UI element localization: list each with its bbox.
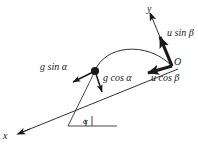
vector-label-u-cos-beta: u cos β (151, 73, 179, 83)
x-axis-label: x (3, 131, 7, 141)
vector-label-g-cos-alpha: g cos α (103, 73, 132, 83)
physics-diagram: y x O α u sin β u cos β g sin α g cos α (0, 0, 198, 151)
particle-connector-line (68, 71, 95, 126)
vector-g-cos-alpha (95, 71, 102, 92)
vector-u-sin-beta (160, 37, 172, 66)
angle-alpha-label: α (83, 117, 88, 126)
x-axis-arrow (18, 129, 31, 134)
origin-label: O (174, 57, 181, 67)
vector-g-sin-alpha (73, 71, 95, 82)
y-axis-label: y (147, 4, 151, 14)
vector-label-g-sin-alpha: g sin α (40, 62, 67, 72)
vector-label-u-sin-beta: u sin β (167, 28, 194, 38)
